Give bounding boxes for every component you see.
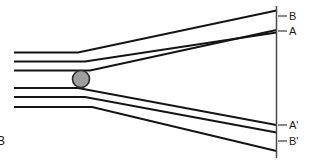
ray-paths-group [14, 11, 277, 152]
ray-diagram-canvas [0, 0, 313, 162]
tick-marks-group [278, 16, 287, 141]
label-b-prime-bottom: B' [289, 136, 298, 147]
ray-line [14, 107, 277, 151]
ray-line [14, 97, 277, 133]
ray-line [14, 30, 277, 71]
ray-line [14, 33, 277, 62]
ray-diagram-figure: B A A' B' B [0, 0, 313, 162]
label-a-top: A [289, 26, 296, 37]
label-a-prime-bottom: A' [289, 120, 298, 131]
label-corner-cropped: B [0, 136, 5, 147]
label-b-top: B [289, 11, 296, 22]
sphere-element [73, 71, 90, 88]
ray-line [14, 11, 277, 53]
